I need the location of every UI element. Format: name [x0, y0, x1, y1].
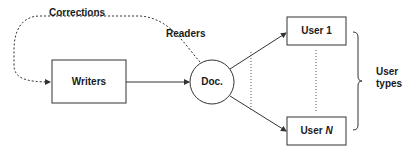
user-types-brace [353, 32, 362, 130]
writers-label: Writers [52, 76, 126, 88]
user1-label: User 1 [287, 25, 346, 37]
readers-label: Readers [166, 28, 205, 40]
doc-to-user1-edge [230, 33, 286, 69]
user-types-label-line1: User [376, 66, 398, 78]
userN-label-prefix: User [300, 125, 325, 136]
doc-label: Doc. [190, 76, 234, 88]
user-types-label-line2: types [376, 78, 402, 90]
corrections-label: Corrections [49, 7, 105, 19]
doc-to-userN-edge [230, 96, 286, 131]
userN-label-variable: N [325, 125, 332, 136]
userN-label: User N [287, 125, 346, 137]
